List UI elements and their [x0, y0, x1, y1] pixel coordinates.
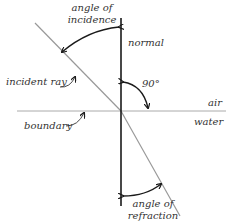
refraction-diagram: [0, 0, 226, 222]
air-label: air: [208, 97, 222, 109]
normal-label: normal: [128, 37, 164, 49]
angle-of-refraction-label: angle of refraction: [125, 198, 181, 222]
angle-of-incidence-line2: incidence: [62, 14, 122, 26]
angle-of-refraction-line2: refraction: [125, 210, 181, 222]
refraction-angle-arc: [123, 184, 161, 196]
angle-of-refraction-line1: angle of: [125, 198, 181, 210]
incident-ray-line: [35, 23, 121, 111]
incidence-angle-arc: [62, 27, 119, 52]
incident-ray-label: incident ray: [6, 76, 67, 88]
right-angle-label: 90°: [142, 78, 160, 90]
angle-of-incidence-line1: angle of: [62, 2, 122, 14]
boundary-label: boundary: [24, 120, 72, 132]
water-label: water: [194, 116, 223, 128]
angle-of-incidence-label: angle of incidence: [62, 2, 122, 26]
